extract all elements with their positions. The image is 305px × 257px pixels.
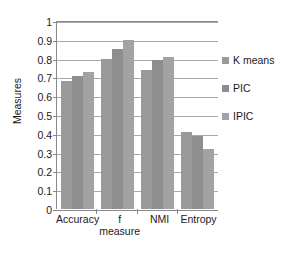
x-category-label: NMI	[140, 213, 179, 237]
y-tick-label: 1	[46, 16, 52, 28]
y-tick-label: 0.8	[37, 54, 52, 66]
y-tick-label: 0	[46, 204, 52, 216]
x-category-label: Accuracy	[56, 213, 99, 237]
y-tick-label: 0.2	[37, 166, 52, 178]
y-tick-label: 0.9	[37, 35, 52, 47]
x-category-label-line2: measure	[99, 225, 140, 237]
y-tick-label: 0.5	[37, 110, 52, 122]
bar	[181, 132, 192, 209]
bar	[72, 76, 83, 209]
y-tick-mark	[53, 210, 57, 211]
y-tick-label: 0.1	[37, 185, 52, 197]
x-category-label: Entropy	[179, 213, 218, 237]
bar	[123, 40, 134, 209]
gridline	[57, 210, 218, 211]
x-category-label: fmeasure	[99, 213, 140, 237]
bar-groups	[57, 22, 218, 209]
bar	[112, 49, 123, 209]
bar	[192, 136, 203, 209]
y-tick-label: 0.6	[37, 91, 52, 103]
bar-group	[97, 22, 137, 209]
legend-item[interactable]: IPIC	[222, 102, 305, 130]
y-axis-title: Measures	[11, 56, 23, 146]
bar	[83, 72, 94, 209]
x-axis-labels: AccuracyfmeasureNMIEntropy	[56, 213, 218, 237]
y-tick-label: 0.4	[37, 129, 52, 141]
x-category-label-line1: Entropy	[180, 213, 216, 225]
x-category-label-line1: NMI	[150, 213, 169, 225]
legend-item[interactable]: PIC	[222, 74, 305, 102]
bar	[101, 59, 112, 209]
legend-label: K means	[233, 54, 274, 66]
legend-item[interactable]: K means	[222, 46, 305, 74]
legend-swatch-icon	[222, 113, 229, 120]
bar	[141, 70, 152, 209]
bar	[152, 60, 163, 209]
legend-swatch-icon	[222, 85, 229, 92]
bar	[203, 149, 214, 209]
x-category-label-line1: Accuracy	[56, 213, 99, 225]
bar-chart-figure: Measures 10.90.80.70.60.50.40.30.20.10 A…	[0, 0, 305, 257]
y-tick-label: 0.7	[37, 72, 52, 84]
legend-swatch-icon	[222, 57, 229, 64]
bar-group	[57, 22, 97, 209]
bar	[61, 81, 72, 209]
bar-group	[138, 22, 178, 209]
y-tick-label: 0.3	[37, 148, 52, 160]
bar	[163, 57, 174, 209]
legend-label: PIC	[233, 82, 251, 94]
legend: K meansPICIPIC	[222, 46, 305, 130]
plot-area: 10.90.80.70.60.50.40.30.20.10	[56, 21, 218, 209]
bar-group	[178, 22, 218, 209]
legend-label: IPIC	[233, 110, 253, 122]
x-category-label-line1: f	[118, 213, 121, 225]
